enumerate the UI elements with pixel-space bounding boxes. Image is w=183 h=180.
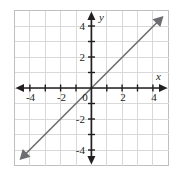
- x-tick-label-neg2: -2: [57, 91, 66, 103]
- x-tick-label-neg4: -4: [26, 91, 36, 103]
- origin-label: 0: [82, 91, 88, 103]
- x-axis-label: x: [155, 70, 161, 82]
- y-tick-label-pos4: 4: [80, 20, 86, 32]
- y-axis-label: y: [98, 11, 104, 23]
- y-tick-label-neg4: -4: [76, 144, 86, 156]
- y-tick-label-pos2: 2: [80, 51, 86, 63]
- x-tick-label-pos4: 4: [151, 91, 157, 103]
- y-tick-label-neg2: -2: [76, 113, 85, 125]
- x-tick-label-pos2: 2: [120, 91, 126, 103]
- graph-figure: -4 -2 2 4 0 4 2 -2 -4 y x: [0, 0, 183, 180]
- coordinate-plane: -4 -2 2 4 0 4 2 -2 -4 y x: [0, 0, 183, 180]
